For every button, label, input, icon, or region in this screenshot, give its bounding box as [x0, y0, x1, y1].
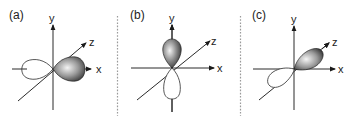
panel-label-a: (a): [9, 8, 24, 22]
z-axis-label: z: [332, 36, 338, 48]
panel-a: (a) y x z: [9, 8, 102, 110]
x-axis-label: x: [96, 63, 102, 75]
orbital-lobe-positive: [294, 48, 323, 70]
x-axis-label: x: [338, 63, 344, 75]
x-axis-label: x: [217, 62, 223, 74]
panel-c: (c) y x z: [252, 8, 344, 110]
panel-label-b: (b): [130, 8, 145, 22]
panel-b: (b) y x z: [130, 8, 223, 112]
orbital-lobe-positive: [53, 57, 85, 81]
orbital-lobe-negative: [164, 68, 181, 99]
y-axis-label: y: [49, 12, 55, 24]
p-orbitals-figure: (a) y x z (b) y x z (c): [0, 0, 358, 122]
orbital-lobe-positive: [163, 39, 181, 68]
y-axis-label: y: [169, 12, 175, 24]
y-axis-label: y: [291, 13, 297, 25]
panel-label-c: (c): [252, 8, 266, 22]
z-axis-label: z: [89, 36, 95, 48]
orbital-lobe-negative: [268, 68, 294, 87]
z-axis-label: z: [211, 35, 217, 47]
z-axis-upper: [322, 43, 329, 49]
